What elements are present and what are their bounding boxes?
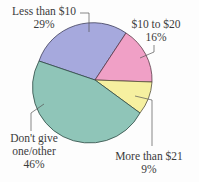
pie-chart: Less than $10 29% $10 to $20 16% More th… xyxy=(0,0,199,182)
label-more-than-21-pct: 9% xyxy=(107,163,191,176)
label-10-to-20: $10 to $20 16% xyxy=(124,18,188,44)
label-10-to-20-pct: 16% xyxy=(124,31,188,44)
label-10-to-20-name: $10 to $20 xyxy=(124,18,188,31)
label-dont-give: Don't give one/other 46% xyxy=(2,132,66,171)
label-less-than-10-name: Less than $10 xyxy=(9,5,79,18)
label-more-than-21-name: More than $21 xyxy=(107,150,191,163)
label-dont-give-name-line1: Don't give xyxy=(2,132,66,145)
label-more-than-21: More than $21 9% xyxy=(107,150,191,176)
label-less-than-10: Less than $10 29% xyxy=(9,5,79,31)
label-dont-give-pct: 46% xyxy=(2,158,66,171)
label-less-than-10-pct: 29% xyxy=(9,18,79,31)
label-dont-give-name-line2: one/other xyxy=(2,145,66,158)
